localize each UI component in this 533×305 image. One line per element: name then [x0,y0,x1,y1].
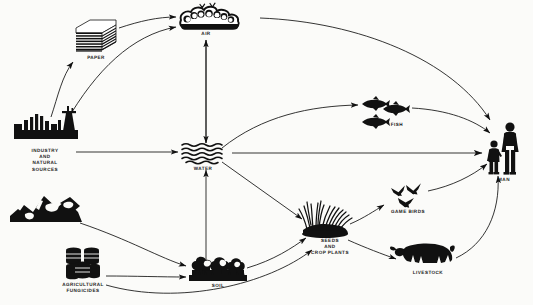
soil-trees-icon [189,257,247,281]
pollutant-pathway-diagram: INDUSTRY AND NATURAL SOURCES PAPER AIR W… [0,0,533,305]
birds-icon [391,183,422,208]
flow-seeds-to-livestock [348,240,396,259]
cow-icon [390,243,455,263]
flow-water-to-seeds [222,162,302,219]
label-man: MAN [498,177,510,184]
man-child-icon [487,122,519,174]
label-seeds: SEEDS AND CROP PLANTS [311,238,349,257]
adult-figure [502,122,519,174]
label-water: WATER [194,166,213,173]
child-figure [487,140,502,174]
paper-stack-icon [76,20,116,52]
label-fungicides: AGRICULTURAL FUNGICIDES [62,282,104,294]
flow-seeds-to-gamebirds [350,205,384,224]
flow-gamebirds-to-man [428,164,487,191]
flow-fish-to-man [412,108,490,133]
label-paper: PAPER [87,55,105,62]
barrels-icon [66,247,100,279]
crop-plants-base [302,224,348,238]
label-air: AIR [201,31,210,38]
flow-industry-to-paper [51,62,73,117]
label-fish: FISH [391,122,403,129]
factory-icon [14,106,78,139]
flow-soil-to-seeds [247,238,306,268]
label-livestock: LIVESTOCK [413,270,443,277]
label-industry: INDUSTRY AND NATURAL SOURCES [32,148,59,173]
flow-paper-to-air [119,17,176,28]
diagram-canvas [0,0,533,305]
flow-water-to-fish [222,105,358,148]
water-waves-icon [182,144,222,164]
label-gamebirds: GAME BIRDS [391,209,425,216]
cloud-icon [180,3,239,30]
flow-livestock-to-man [456,176,498,258]
label-soil: SOIL [212,283,225,290]
flow-fungicides-to-soil [106,276,186,277]
